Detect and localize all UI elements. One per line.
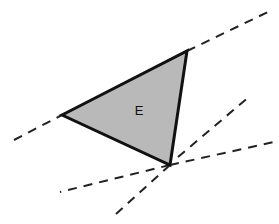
- dashed-line-bottom: [116, 165, 170, 214]
- region-label: E: [135, 103, 144, 118]
- dashed-line-left: [14, 115, 62, 140]
- dashed-line-right: [170, 142, 274, 165]
- triangle-region: [62, 51, 187, 165]
- dashed-line-top-right: [187, 10, 272, 51]
- diagram-canvas: E: [0, 0, 279, 224]
- dashed-line-bottom-left: [60, 165, 170, 192]
- dashed-line-upper-right: [178, 96, 250, 157]
